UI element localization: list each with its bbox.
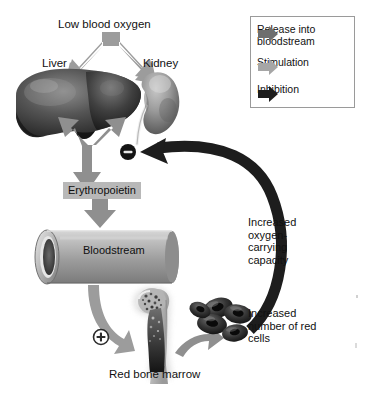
legend-box: Release into bloodstream Stimulation Inh…: [250, 16, 355, 108]
bloodstream-vessel-illustration: [35, 230, 179, 284]
release-arrow-icon: [257, 25, 279, 43]
scan-artifacts: [355, 295, 358, 348]
label-bloodstream: Bloodstream: [83, 244, 145, 257]
stimulation-arrow-icon: [257, 58, 279, 76]
label-liver: Liver: [42, 57, 67, 70]
label-erythropoietin: Erythropoietin: [63, 182, 141, 199]
label-low-blood-oxygen: Low blood oxygen: [58, 18, 151, 31]
stimulation-sign-node: [94, 330, 109, 345]
label-kidney: Kidney: [143, 57, 178, 70]
kidney-illustration: [137, 72, 179, 144]
inhibition-arrow-icon: [257, 85, 279, 103]
diagram-canvas: Low blood oxygen Liver Kidney Erythropoi…: [0, 0, 368, 394]
label-increased-oxygen-carrying-capacity: Increased oxygen-carrying capacity: [248, 216, 318, 266]
release-arrow-to-bloodstream: [84, 198, 116, 228]
legend-item-stimulation: Stimulation: [257, 57, 327, 69]
label-increased-red-cells: Increased number of red cells: [248, 307, 320, 345]
label-red-bone-marrow: Red bone marrow: [109, 368, 200, 381]
legend-item-inhibition: Inhibition: [257, 84, 327, 96]
liver-illustration: [16, 69, 141, 139]
inhibition-sign-node: [120, 144, 136, 160]
stimulation-arrow-to-marrow: [88, 285, 135, 354]
legend-item-release: Release into bloodstream: [257, 24, 327, 47]
